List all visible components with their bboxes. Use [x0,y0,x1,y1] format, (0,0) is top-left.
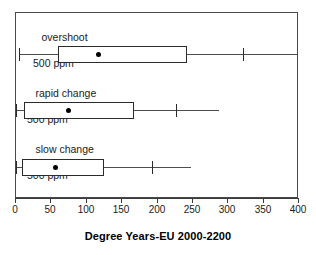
box-overshoot [58,46,187,63]
x-tick-label-50: 50 [30,204,70,216]
median-dot-slow-change [53,165,58,170]
whisker-cap-low-overshoot [19,48,20,61]
box-rapid-change [24,102,134,119]
x-tick-label-350: 350 [243,204,283,216]
outlier-tick-slow-change [152,161,153,174]
x-tick-50 [50,199,51,203]
group-label-slow-change-line1: slow change [36,143,94,155]
x-tick-label-200: 200 [137,204,177,216]
whisker-cap-low-rapid-change [16,104,17,117]
x-tick-350 [263,199,264,203]
x-tick-label-300: 300 [207,204,247,216]
median-dot-overshoot [96,52,101,57]
outlier-tick-overshoot [243,48,244,61]
x-tick-label-400: 400 [278,204,316,216]
group-label-overshoot-line1: overshoot [42,31,88,43]
whisker-cap-low-slow-change [16,161,17,174]
x-tick-label-250: 250 [172,204,212,216]
x-tick-label-100: 100 [66,204,106,216]
outlier-tick-rapid-change [176,104,177,117]
x-tick-0 [15,199,16,203]
x-tick-label-150: 150 [101,204,141,216]
box-slow-change [22,159,104,176]
x-tick-250 [192,199,193,203]
group-label-rapid-change-line1: rapid change [36,87,97,99]
x-tick-150 [121,199,122,203]
x-tick-400 [298,199,299,203]
x-tick-100 [86,199,87,203]
x-tick-300 [227,199,228,203]
boxplot-figure: overshoot 500 ppm rapid change 500 ppm s… [0,0,316,255]
median-dot-rapid-change [66,108,71,113]
x-tick-200 [157,199,158,203]
x-axis-title: Degree Years-EU 2000-2200 [0,230,316,242]
